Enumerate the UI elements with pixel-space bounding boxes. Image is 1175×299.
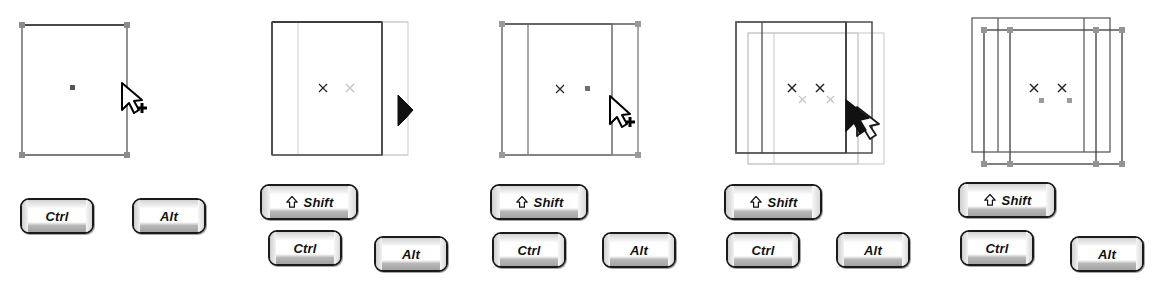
key-bevel-right (1136, 238, 1142, 270)
key-bevel-left (262, 186, 270, 218)
key-shift[interactable]: Shift (958, 182, 1056, 218)
key-bevel-right (1046, 184, 1054, 216)
key-bevel-bottom (134, 222, 204, 232)
key-face (844, 242, 901, 256)
rectangle-copy-preview (298, 22, 408, 155)
panel-2-keys: Shift Ctrl Alt (250, 180, 485, 299)
key-shift[interactable]: Shift (724, 184, 822, 220)
key-bevel-top (962, 232, 1032, 240)
key-bevel-right (558, 234, 564, 266)
key-face (382, 246, 439, 260)
key-bevel-bottom (262, 208, 356, 218)
key-bevel-left (492, 186, 500, 218)
key-bevel-top (494, 234, 564, 242)
panel-3-keys: Shift Ctrl Alt (480, 180, 715, 299)
key-bevel-top (726, 186, 820, 194)
key-alt[interactable]: Alt (836, 232, 910, 268)
key-bevel-left (726, 186, 734, 218)
selection-handles[interactable] (981, 27, 1125, 167)
key-alt[interactable]: Alt (374, 236, 448, 272)
key-bevel-bottom (376, 260, 446, 270)
key-bevel-right (902, 234, 908, 266)
group-original[interactable] (984, 30, 1122, 164)
key-bevel-bottom (726, 208, 820, 218)
key-ctrl[interactable]: Ctrl (268, 230, 342, 266)
key-face (968, 192, 1045, 206)
key-bevel-left (960, 184, 968, 216)
key-face (734, 242, 791, 256)
panel-3-canvas (480, 0, 715, 180)
key-bevel-top (376, 238, 446, 246)
key-bevel-right (86, 200, 92, 232)
key-bevel-right (198, 200, 204, 232)
group-original[interactable] (736, 22, 872, 153)
key-ctrl[interactable]: Ctrl (960, 230, 1034, 266)
key-bevel-top (728, 234, 798, 242)
key-alt[interactable]: Alt (1070, 236, 1144, 272)
panel-1-canvas (0, 0, 235, 180)
key-bevel-top (262, 186, 356, 194)
key-bevel-top (270, 232, 340, 240)
key-alt[interactable]: Alt (602, 232, 676, 268)
marker-cross-dark (788, 84, 824, 92)
key-bevel-top (604, 234, 674, 242)
key-bevel-bottom (270, 254, 340, 264)
panel-2-drag-copy-in-progress: Shift Ctrl Alt (250, 0, 485, 299)
key-shift[interactable]: Shift (260, 184, 358, 220)
panel-4-drag-copy-diagonal: Shift Ctrl Alt (710, 0, 945, 299)
key-bevel-bottom (962, 254, 1032, 264)
key-bevel-top (960, 184, 1054, 192)
key-alt[interactable]: Alt (132, 198, 206, 234)
group-copy[interactable] (972, 18, 1110, 152)
marker-cross-light (799, 96, 834, 103)
key-bevel-right (812, 186, 820, 218)
key-face (500, 194, 577, 208)
key-bevel-top (838, 234, 908, 242)
key-face (734, 194, 811, 208)
rectangle-copy[interactable] (528, 24, 638, 155)
key-bevel-bottom (604, 256, 674, 266)
key-shift[interactable]: Shift (490, 184, 588, 220)
key-ctrl[interactable]: Ctrl (20, 198, 94, 234)
panel-5-copy-complete-selected: Shift Ctrl Alt (940, 0, 1175, 299)
key-bevel-bottom (492, 208, 586, 218)
key-bevel-bottom (728, 256, 798, 266)
panel-1-select-object: Ctrl Alt (0, 0, 235, 299)
key-bevel-right (578, 186, 586, 218)
panel-5-keys: Shift Ctrl Alt (940, 180, 1175, 299)
key-bevel-top (1072, 238, 1142, 246)
key-face (610, 242, 667, 256)
group-copy-preview (748, 33, 884, 164)
key-face (276, 240, 333, 254)
key-bevel-bottom (1072, 260, 1142, 270)
key-face (1078, 246, 1135, 260)
key-face (500, 242, 557, 256)
key-face (140, 208, 197, 222)
key-bevel-right (1026, 232, 1032, 264)
double-arrow-copy-cursor (846, 100, 879, 139)
key-face (270, 194, 347, 208)
key-bevel-bottom (494, 256, 564, 266)
key-bevel-bottom (22, 222, 92, 232)
panel-1-keys: Ctrl Alt (0, 180, 235, 299)
key-bevel-right (792, 234, 798, 266)
key-bevel-top (492, 186, 586, 194)
figure-stage: Ctrl Alt (0, 0, 1175, 299)
key-bevel-right (440, 238, 446, 270)
panel-4-canvas (710, 0, 945, 180)
key-face (28, 208, 85, 222)
key-bevel-right (334, 232, 340, 264)
panel-2-canvas (250, 0, 485, 180)
key-bevel-top (22, 200, 92, 208)
key-bevel-top (134, 200, 204, 208)
key-ctrl[interactable]: Ctrl (726, 232, 800, 268)
key-face (968, 240, 1025, 254)
marker-square-mid (1039, 98, 1072, 103)
panel-4-keys: Shift Ctrl Alt (710, 180, 945, 299)
key-bevel-right (348, 186, 356, 218)
key-ctrl[interactable]: Ctrl (492, 232, 566, 268)
key-bevel-right (668, 234, 674, 266)
key-bevel-bottom (960, 206, 1054, 216)
key-bevel-bottom (838, 256, 908, 266)
marker-square-dark (585, 86, 590, 91)
